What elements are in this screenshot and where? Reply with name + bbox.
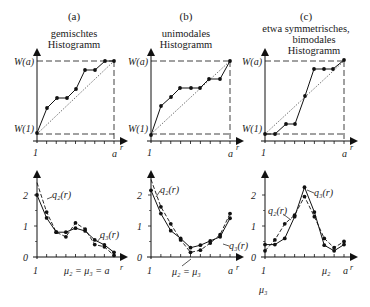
data-point xyxy=(103,59,107,63)
q3-point xyxy=(218,235,222,239)
q3-label: q₃(r) xyxy=(314,187,334,199)
data-point xyxy=(159,104,163,108)
data-point xyxy=(74,87,78,91)
q3-point xyxy=(332,249,336,253)
data-point xyxy=(112,59,116,63)
q3-point xyxy=(102,243,106,247)
q2-point xyxy=(74,221,78,225)
q3-point xyxy=(228,216,232,220)
x-label-end: a xyxy=(342,148,347,159)
data-point xyxy=(228,59,232,63)
q3-point xyxy=(293,215,297,219)
y-label-wa: W(a) xyxy=(128,56,149,68)
data-point xyxy=(65,96,69,100)
x-label-end: a xyxy=(228,265,233,276)
q3-point xyxy=(93,238,97,242)
y-tick-label: 1 xyxy=(251,221,256,232)
q3-point xyxy=(45,216,49,220)
data-point xyxy=(93,68,97,72)
q3-point xyxy=(198,243,202,247)
panel-title-line: etwa symmetrisches, xyxy=(262,23,349,34)
q3-point xyxy=(208,239,212,243)
q3-point xyxy=(74,226,78,230)
x-axis-label: r xyxy=(350,263,354,272)
q3-point xyxy=(179,237,183,241)
x-label-end: a xyxy=(343,265,348,276)
y-tick-label: 2 xyxy=(137,190,142,201)
panel-title-line: Histogramm xyxy=(48,39,101,50)
q3-point xyxy=(273,243,277,247)
q2-label: q₂(r) xyxy=(52,189,72,201)
q3-point xyxy=(322,243,326,247)
q2-point xyxy=(64,235,68,239)
mu2-label: μ₂ xyxy=(321,265,331,276)
q2-point xyxy=(303,195,307,199)
data-point xyxy=(284,122,288,126)
q3-point xyxy=(112,250,116,254)
y-tick-label: 0 xyxy=(23,252,28,263)
data-point xyxy=(331,67,335,71)
x-label-start: 1 xyxy=(33,265,38,276)
q3-point xyxy=(342,243,346,247)
y-label-w1: W(1) xyxy=(128,123,149,135)
y-tick-label: 0 xyxy=(251,252,256,263)
q2-point xyxy=(322,237,326,241)
q3-point xyxy=(189,246,193,250)
q2-point xyxy=(159,205,163,209)
q3-point xyxy=(35,193,39,197)
q3-line xyxy=(151,190,230,247)
x-label-start: 1 xyxy=(147,265,152,276)
data-point xyxy=(45,106,49,110)
q-chart: 0121rμ₂ = μ₃ = aq₂(r)q₃(r) xyxy=(23,172,126,276)
panel-title-line: Histogramm xyxy=(288,45,341,56)
q2-label: q₂(r) xyxy=(160,184,180,196)
figure-histogram-comparison: (a)gemischtesHistogrammW(a)W(1)1ar0121rμ… xyxy=(0,0,370,307)
panel-a: (a)gemischtesHistogrammW(a)W(1)1ar0121rμ… xyxy=(14,10,126,276)
x-axis-label: r xyxy=(120,263,124,272)
cumulative-chart: W(a)W(1)1ar xyxy=(128,50,242,159)
data-point xyxy=(178,86,182,90)
panel-label: (c) xyxy=(300,10,313,23)
q3-leader xyxy=(307,190,314,193)
x-label-start: 1 xyxy=(261,147,266,158)
data-point xyxy=(149,133,153,137)
cumulative-chart: W(a)W(1)1ar xyxy=(14,50,126,159)
data-point xyxy=(342,58,346,62)
mu3-label: μ₃ xyxy=(258,284,268,295)
mu-leader xyxy=(182,259,191,266)
q2-point xyxy=(312,215,316,219)
panel-title-line: unimodales xyxy=(162,28,210,39)
x-label-end: a xyxy=(112,148,117,159)
x-axis-label: r xyxy=(236,263,240,272)
q3-point xyxy=(169,229,173,233)
y-tick-label: 2 xyxy=(251,190,256,201)
data-point xyxy=(263,132,267,136)
data-point xyxy=(207,77,211,81)
diagonal-reference xyxy=(151,61,230,134)
data-point xyxy=(312,67,316,71)
q2-point xyxy=(198,248,202,252)
panel-label: (b) xyxy=(180,10,193,23)
x-label-start: 1 xyxy=(147,147,152,158)
panel-label: (a) xyxy=(68,10,81,23)
data-point xyxy=(55,96,59,100)
q3-label: q₃(r) xyxy=(100,229,120,241)
q2-point xyxy=(228,212,232,216)
q2-point xyxy=(45,210,49,214)
q3-label: q₃(r) xyxy=(229,240,249,252)
mu-label: μ₂ = μ₃ xyxy=(171,266,201,277)
panel-title-line: bimodales xyxy=(292,34,335,45)
q-chart: 0121rμ₂aμ₃q₃(r)q₂(r) xyxy=(251,172,356,295)
data-point xyxy=(198,86,202,90)
q2-point xyxy=(189,250,193,254)
x-axis-label: r xyxy=(350,143,354,152)
x-label-start: 1 xyxy=(261,265,266,276)
panel-c: (c)etwa symmetrisches,bimodalesHistogram… xyxy=(242,10,356,295)
panel-title-line: gemischtes xyxy=(51,28,98,39)
q3-point xyxy=(312,210,316,214)
q2-point xyxy=(169,222,173,226)
data-point xyxy=(83,68,87,72)
q3-point xyxy=(149,188,153,192)
q3-point xyxy=(64,230,68,234)
q2-point xyxy=(93,243,97,247)
